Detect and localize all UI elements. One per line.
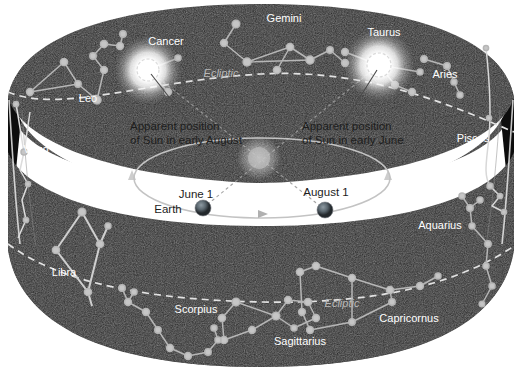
earth-august-1 <box>317 202 333 218</box>
constellation-label-aries: Aries <box>432 68 458 80</box>
constellation-label-virgo: Virgo <box>23 143 48 155</box>
constellation-label-pisces: Pisces <box>457 132 490 144</box>
ecliptic-label-bottom: Ecliptic <box>325 297 360 309</box>
label-june-1: June 1 <box>179 188 214 200</box>
constellation-label-capricornus: Capricornus <box>379 312 439 324</box>
label-earth: Earth <box>154 203 182 215</box>
constellation-label-leo: Leo <box>79 92 97 104</box>
earth-june-1 <box>195 200 211 216</box>
constellation-label-gemini: Gemini <box>267 12 302 24</box>
callout-august-line1: Apparent position <box>130 120 220 132</box>
constellation-label-scorpius: Scorpius <box>175 303 218 315</box>
constellation-label-cancer: Cancer <box>148 35 184 47</box>
callout-june-line2: of Sun in early June <box>302 134 404 146</box>
central-sun-core <box>248 147 270 169</box>
callout-august-line2: of Sun in early August <box>130 134 243 146</box>
apparent-sun-june <box>343 29 415 101</box>
constellation-label-aquarius: Aquarius <box>418 219 462 231</box>
ecliptic-label-top: Ecliptic <box>204 67 239 79</box>
zodiac-diagram: Leo Cancer Gemini Taurus Aries Pisces Aq… <box>0 0 522 371</box>
constellation-label-libra: Libra <box>52 266 77 278</box>
callout-june-line1: Apparent position <box>302 120 392 132</box>
label-august-1: August 1 <box>303 186 348 198</box>
constellation-label-sagittarius: Sagittarius <box>274 335 326 347</box>
constellation-label-taurus: Taurus <box>367 26 401 38</box>
